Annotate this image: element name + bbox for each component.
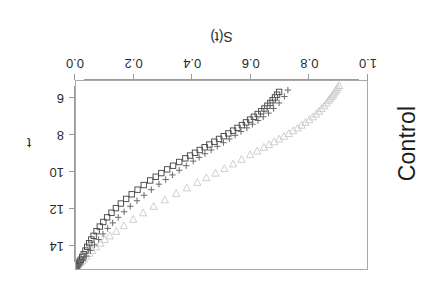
- data-point: [129, 192, 134, 197]
- data-point: [238, 128, 244, 134]
- data-point: [176, 159, 181, 164]
- data-point: [194, 179, 201, 186]
- data-point: [130, 215, 137, 222]
- data-point: [159, 170, 164, 175]
- data-point: [147, 178, 152, 183]
- axis-s: 1.00.80.60.40.20.0: [75, 79, 368, 80]
- data-point: [109, 220, 115, 226]
- axis-t-tick: [69, 171, 75, 172]
- axis-s-tick: [191, 74, 192, 80]
- axis-t-title: t: [19, 0, 39, 287]
- data-point: [203, 174, 210, 181]
- axis-s-tick-label: 0.0: [66, 56, 84, 71]
- data-point: [170, 163, 175, 168]
- data-point: [229, 160, 236, 167]
- data-point: [127, 203, 133, 209]
- axis-s-tick: [133, 74, 134, 80]
- axis-s-tick: [250, 74, 251, 80]
- data-point: [153, 174, 158, 179]
- axis-s-tick: [367, 74, 368, 80]
- data-point: [115, 214, 121, 220]
- data-point: [148, 186, 154, 192]
- axis-t-tick: [69, 134, 75, 135]
- page-title: Control: [377, 0, 437, 287]
- data-point: [285, 87, 291, 93]
- axis-t-tick-label: 14: [50, 239, 64, 254]
- plot-panel: [75, 80, 368, 270]
- axis-t-tick: [69, 245, 75, 246]
- axis-t-tick-label: 6: [57, 91, 64, 106]
- data-point: [163, 176, 169, 182]
- axis-s-title: S(t): [75, 29, 368, 45]
- figure-rotated-canvas: Control 1.00.80.60.40.20.0 S(t) 68101214…: [0, 0, 437, 287]
- axis-s-tick-label: 1.0: [359, 56, 377, 71]
- data-point: [183, 184, 190, 191]
- data-point: [134, 198, 140, 204]
- data-point: [87, 240, 92, 245]
- data-point: [150, 203, 157, 210]
- axis-t-tick-label: 10: [50, 165, 64, 180]
- data-point: [190, 158, 196, 164]
- axis-t-tick: [69, 97, 75, 98]
- axis-t-tick-label: 8: [57, 128, 64, 143]
- data-point: [173, 190, 180, 197]
- data-point: [156, 181, 162, 187]
- data-point: [135, 187, 140, 192]
- plot-title-text: Control: [393, 106, 420, 182]
- data-point: [104, 225, 110, 231]
- data-point: [208, 147, 214, 153]
- data-point: [238, 155, 245, 162]
- data-point: [123, 196, 128, 201]
- axis-t-tick: [69, 208, 75, 209]
- data-point: [176, 167, 182, 173]
- data-point: [221, 165, 228, 172]
- data-point: [220, 139, 226, 145]
- axis-s-tick-label: 0.4: [183, 56, 201, 71]
- data-point: [276, 100, 282, 106]
- data-point: [121, 209, 127, 215]
- data-point: [161, 196, 168, 203]
- data-point: [183, 162, 189, 168]
- data-point: [212, 169, 219, 176]
- axis-t: 68101214: [74, 80, 75, 270]
- axis-s-tick: [308, 74, 309, 80]
- data-point: [255, 117, 261, 123]
- axis-s-line: [84, 79, 359, 80]
- data-point: [226, 136, 232, 142]
- data-point: [164, 167, 169, 172]
- data-point: [141, 192, 147, 198]
- data-point: [141, 182, 146, 187]
- data-point: [140, 209, 147, 216]
- data-point: [169, 172, 175, 178]
- scatter-marks: [75, 80, 367, 269]
- data-point: [260, 114, 266, 120]
- axis-s-tick-label: 0.2: [125, 56, 143, 71]
- axis-s-tick-label: 0.8: [300, 56, 318, 71]
- data-point: [113, 227, 120, 234]
- data-point: [84, 244, 89, 249]
- data-point: [270, 105, 276, 111]
- data-point: [106, 232, 113, 239]
- axis-t-line: [74, 86, 75, 262]
- data-point: [246, 151, 253, 158]
- figure-root: Control 1.00.80.60.40.20.0 S(t) 68101214…: [0, 0, 437, 287]
- axis-s-tick-label: 0.6: [242, 56, 260, 71]
- data-point: [120, 222, 127, 229]
- axis-t-tick-label: 12: [50, 202, 64, 217]
